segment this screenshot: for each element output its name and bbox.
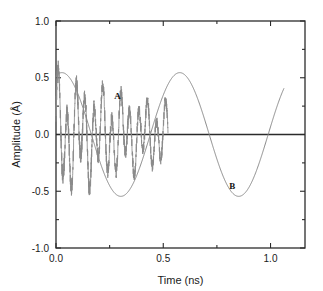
x-axis-title: Time (ns) xyxy=(157,274,203,286)
curve-label-a: A xyxy=(114,91,121,101)
y-tick-label: -0.5 xyxy=(32,186,50,197)
y-axis-title: Amplitude (Å) xyxy=(10,101,22,168)
x-tick-label: 1.0 xyxy=(264,253,278,264)
curve-label-b: B xyxy=(229,181,235,191)
x-tick-label: 0.5 xyxy=(156,253,170,264)
y-tick-label: 1.0 xyxy=(35,16,49,27)
y-tick-label: 0.5 xyxy=(35,72,49,83)
amplitude-vs-time-plot: 0.00.51.0 -1.0-0.50.00.51.0 Time (ns) Am… xyxy=(0,0,323,291)
y-tick-label: 0.0 xyxy=(35,129,49,140)
y-tick-label: -1.0 xyxy=(32,243,50,254)
chart-figure: 0.00.51.0 -1.0-0.50.00.51.0 Time (ns) Am… xyxy=(0,0,323,291)
y-axis-tick-labels: -1.0-0.50.00.51.0 xyxy=(32,16,50,254)
x-axis-tick-labels: 0.00.51.0 xyxy=(49,253,278,264)
x-tick-label: 0.0 xyxy=(49,253,63,264)
data-curve-a xyxy=(56,61,168,196)
